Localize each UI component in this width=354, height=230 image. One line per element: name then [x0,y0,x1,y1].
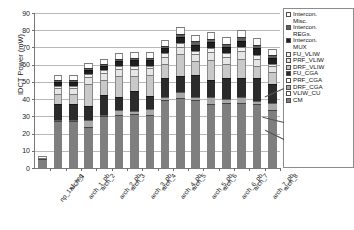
y-tick-label: 70 [14,44,30,51]
bar-segment [161,78,170,98]
bar-segment [207,80,216,97]
bar-segment [237,51,246,59]
bar-stack[interactable] [176,13,185,168]
legend-swatch-icon [286,71,291,76]
bar-segment [161,100,170,168]
bar-stack[interactable] [207,13,216,168]
bar-segment [146,58,155,61]
bar-segment [84,68,93,70]
bar-segment [130,76,139,91]
bar-stack[interactable] [237,13,246,168]
bar-segment [100,73,109,80]
bar-segment [100,95,109,115]
y-tick-mark [32,168,35,169]
bar-stack[interactable] [38,13,47,168]
x-tick-mark [50,168,51,171]
bar-stack[interactable] [54,13,63,168]
bar-segment [100,59,109,64]
bar-segment [191,97,200,100]
bar-segment [176,47,185,55]
bar-stack[interactable] [100,13,109,168]
bar-segment [222,103,231,168]
bar-segment [100,66,109,70]
bar-segment [115,61,124,66]
bar-segment [176,43,185,46]
bar-segment [237,97,246,104]
bar-stack[interactable] [115,13,124,168]
bar-segment [115,97,124,110]
x-tick-mark [96,168,97,171]
x-tick-label: arch_3 [129,172,147,192]
bar-segment [100,115,109,117]
bar-segment [69,88,78,94]
y-tick-mark [32,82,35,83]
bar-segment [161,53,170,56]
x-tick-mark [219,168,220,171]
legend-item[interactable]: Intercon. MUX [286,37,352,50]
legend-swatch-icon [286,85,291,90]
plot-area [34,13,280,169]
bar-segment [84,70,93,74]
bar-stack[interactable] [130,13,139,168]
bar-segment [253,48,262,55]
bar-segment [207,52,216,60]
bar-segment [115,69,124,76]
bar-stack[interactable] [146,13,155,168]
bar-segment [191,41,200,44]
legend-swatch-icon [286,25,291,30]
bar-segment [54,121,63,168]
bar-segment [222,57,231,64]
bar-segment [207,42,216,48]
bar-segment [176,76,185,92]
bar-segment [237,37,246,40]
bar-segment [146,96,155,110]
legend-swatch-icon [286,65,291,70]
bar-segment [191,45,200,51]
bar-segment [268,49,277,55]
bar-segment [176,27,185,34]
bar-segment [191,75,200,97]
bar-segment [207,60,216,81]
bar-segment [100,64,109,66]
bar-segment [253,104,262,168]
bar-segment [161,46,170,49]
bar-stack[interactable] [191,13,200,168]
bar-segment [191,54,200,61]
bar-segment [161,57,170,64]
y-tick-label: 20 [14,130,30,137]
bar-segment [130,60,139,65]
bar-segment [253,38,262,45]
idct-power-stacked-bar-chart: IDCT Power (mW) 0102030405060708090 np_1… [0,0,354,230]
bar-segment [54,104,63,120]
bar-segment [146,115,155,168]
bar-segment [222,44,231,47]
bar-stack[interactable] [253,13,262,168]
bar-segment [207,39,216,42]
bar-segment [253,66,262,79]
bar-stack[interactable] [161,13,170,168]
x-tick-label: arch_5 [190,172,208,192]
y-tick-mark [32,30,35,31]
x-tick-mark [265,168,266,171]
bar-segment [115,110,124,115]
bar-stack[interactable] [84,13,93,168]
bar-segment [237,41,246,48]
legend-item[interactable]: CM [286,97,352,104]
bar-segment [54,94,63,104]
bar-stack[interactable] [69,13,78,168]
bar-segment [130,69,139,76]
legend-item-label: CM [293,97,303,104]
bar-segment [130,114,139,168]
bar-segment [115,59,124,62]
bar-segment [69,121,78,168]
bar-stack[interactable] [222,13,231,168]
bar-segment [54,80,63,82]
bar-segment [100,70,109,73]
bar-segment [115,53,124,58]
x-tick-mark [280,168,281,171]
x-tick-mark [158,168,159,171]
y-tick-label: 30 [14,113,30,120]
y-tick-label: 80 [14,27,30,34]
bar-segment [161,48,170,53]
bar-segment [237,30,246,37]
